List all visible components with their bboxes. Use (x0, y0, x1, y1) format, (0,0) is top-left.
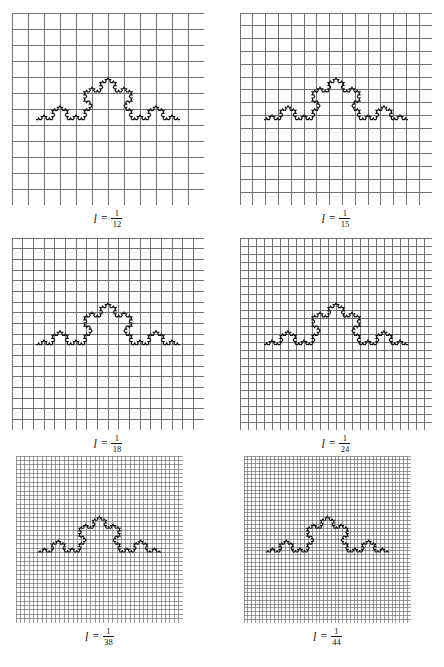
grid-and-curve-1 (12, 13, 204, 205)
caption-fraction: 144 (331, 627, 342, 647)
koch-grid-panel-5: l=138 (16, 456, 183, 647)
panel-caption-1: l=112 (94, 209, 123, 229)
fraction-denominator: 18 (112, 445, 123, 454)
caption-fraction: 115 (339, 209, 350, 229)
fraction-denominator: 24 (340, 445, 351, 454)
grid-box-1 (12, 13, 204, 205)
caption-fraction: 112 (111, 209, 122, 229)
fraction-numerator: 1 (342, 209, 348, 218)
grid-box-3 (12, 238, 204, 430)
square-grid-lines (244, 456, 411, 623)
fraction-numerator: 1 (333, 627, 339, 636)
fraction-denominator: 15 (340, 220, 351, 229)
square-grid-lines (240, 238, 432, 430)
caption-equals-sign: = (328, 438, 340, 450)
grid-and-curve-2 (240, 13, 432, 205)
grid-and-curve-4 (240, 238, 432, 430)
caption-equals-sign: = (100, 213, 112, 225)
grid-box-4 (240, 238, 432, 430)
caption-fraction: 138 (103, 627, 114, 647)
fraction-numerator: 1 (114, 434, 120, 443)
caption-fraction: 118 (111, 434, 122, 454)
caption-equals-sign: = (328, 213, 340, 225)
panel-caption-3: l=118 (94, 434, 123, 454)
caption-equals-sign: = (100, 438, 112, 450)
fraction-numerator: 1 (105, 627, 111, 636)
koch-curve (264, 78, 408, 120)
figure-sheet: l=112l=115l=118l=124l=138l=144 (0, 0, 444, 667)
grid-and-curve-6 (244, 456, 411, 623)
square-grid-lines (12, 238, 204, 430)
square-grid-lines (12, 13, 204, 205)
panel-caption-6: l=144 (313, 627, 342, 647)
fraction-numerator: 1 (114, 209, 120, 218)
koch-grid-panel-6: l=144 (244, 456, 411, 647)
panel-caption-5: l=138 (85, 627, 114, 647)
fraction-denominator: 12 (112, 220, 123, 229)
panel-caption-2: l=115 (322, 209, 351, 229)
koch-grid-panel-3: l=118 (12, 238, 204, 454)
caption-fraction: 124 (339, 434, 350, 454)
square-grid-lines (240, 13, 432, 205)
koch-grid-panel-1: l=112 (12, 13, 204, 229)
square-grid-lines (16, 456, 183, 623)
koch-grid-panel-2: l=115 (240, 13, 432, 229)
grid-box-2 (240, 13, 432, 205)
panel-caption-4: l=124 (322, 434, 351, 454)
caption-equals-sign: = (319, 631, 331, 643)
fraction-denominator: 44 (331, 638, 342, 647)
grid-box-6 (244, 456, 411, 623)
caption-equals-sign: = (91, 631, 103, 643)
fraction-denominator: 38 (103, 638, 114, 647)
koch-grid-panel-4: l=124 (240, 238, 432, 454)
grid-and-curve-3 (12, 238, 204, 430)
fraction-numerator: 1 (342, 434, 348, 443)
grid-box-5 (16, 456, 183, 623)
grid-and-curve-5 (16, 456, 183, 623)
